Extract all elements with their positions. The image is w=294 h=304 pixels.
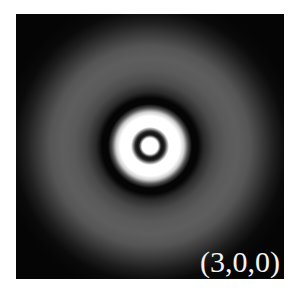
orbital-figure: (3,0,0) (16, 14, 284, 279)
quantum-numbers-label: (3,0,0) (200, 247, 280, 277)
probability-density-image (16, 14, 284, 279)
